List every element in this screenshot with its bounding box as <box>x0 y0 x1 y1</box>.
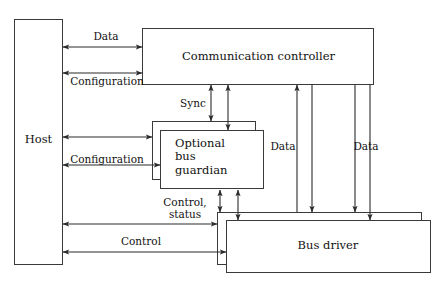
diagram-canvas <box>0 0 444 294</box>
block-diagram: Host Communication controller Optional b… <box>0 0 444 294</box>
block-communication-controller <box>143 29 374 85</box>
block-bus-driver <box>227 221 431 273</box>
block-host <box>15 20 63 265</box>
block-optional-bus-guardian <box>161 131 264 189</box>
